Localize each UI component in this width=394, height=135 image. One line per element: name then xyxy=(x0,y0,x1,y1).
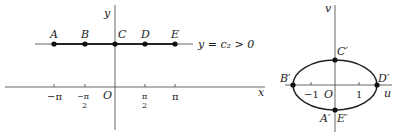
diagram-canvas: A B C D E y = c₂ > 0 y x O −π −π 2 π 2 π… xyxy=(0,0,394,135)
point-b-prime xyxy=(290,82,295,87)
u-axis-label: u xyxy=(384,87,391,100)
label-b: B xyxy=(80,28,89,41)
point-e xyxy=(172,41,177,46)
label-d: D xyxy=(140,28,150,41)
label-b-prime: B′ xyxy=(279,72,291,85)
label-c-prime: C′ xyxy=(337,45,348,58)
point-d xyxy=(142,41,147,46)
point-c xyxy=(112,41,117,46)
label-e: E xyxy=(170,28,179,41)
point-a xyxy=(51,41,56,46)
tick-label-one: 1 xyxy=(356,89,362,100)
line-equation-label: y = c₂ > 0 xyxy=(197,38,254,51)
tick-label-half-pi-num: π xyxy=(142,92,147,101)
tick-label-neg-pi: −π xyxy=(47,91,62,102)
point-c-prime xyxy=(332,57,337,62)
v-axis-label: v xyxy=(325,2,332,15)
tick-label-neg-half-pi-num: −π xyxy=(77,92,89,101)
point-b xyxy=(82,41,87,46)
origin-label: O xyxy=(103,89,112,102)
origin-label-uv: O xyxy=(324,88,333,101)
tick-label-neg-one: −1 xyxy=(304,89,319,100)
tick-label-pi: π xyxy=(172,91,179,102)
label-a: A xyxy=(49,28,58,41)
label-c: C xyxy=(118,28,127,41)
label-e-prime: E′ xyxy=(336,112,348,125)
label-d-prime: D′ xyxy=(377,72,390,85)
label-a-prime: A′ xyxy=(319,112,331,125)
right-plot: C′ B′ D′ A′ E′ v u O −1 1 xyxy=(279,2,392,132)
tick-label-half-pi-den: 2 xyxy=(142,101,147,110)
left-plot: A B C D E y = c₂ > 0 y x O −π −π 2 π 2 π xyxy=(5,5,265,130)
tick-label-neg-half-pi-den: 2 xyxy=(82,101,87,110)
y-axis-label: y xyxy=(103,7,111,20)
x-axis-label: x xyxy=(258,86,265,99)
